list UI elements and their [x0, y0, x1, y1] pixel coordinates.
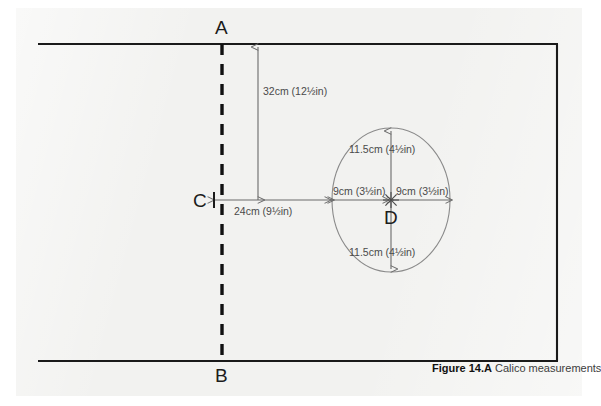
dimension-label-horizontal-24cm: 24cm (9½in) — [234, 206, 292, 217]
point-label-a: A — [215, 18, 228, 37]
figure-caption-text: Calico measurements — [495, 362, 601, 374]
figure-caption: Figure 14.A Calico measurements — [432, 362, 601, 374]
dimension-label-radius-down-115cm: 11.5cm (4½in) — [349, 247, 415, 258]
point-label-d: D — [384, 208, 398, 227]
point-label-c: C — [193, 191, 207, 210]
dimension-label-vertical-32cm: 32cm (12½in) — [263, 86, 327, 97]
dimension-label-radius-up-115cm: 11.5cm (4½in) — [349, 144, 415, 155]
point-label-b: B — [215, 366, 228, 385]
dimension-label-radius-left-9cm: 9cm (3½in) — [333, 186, 386, 197]
figure-caption-label: Figure 14.A — [432, 362, 492, 374]
dimension-label-radius-right-9cm: 9cm (3½in) — [396, 186, 449, 197]
